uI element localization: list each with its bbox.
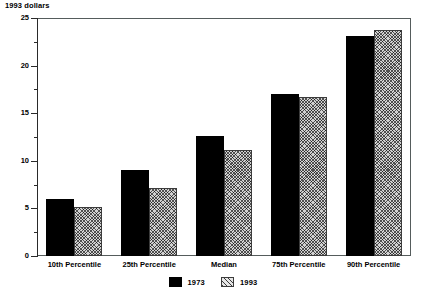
- bar-1973-75th-percentile: [271, 94, 299, 256]
- bar-1993-90th-percentile: [374, 30, 402, 256]
- bar-1973-90th-percentile: [346, 36, 374, 256]
- bar-1993-10th-percentile: [74, 207, 102, 256]
- chart-legend: 19731993: [0, 277, 426, 287]
- legend-item-1993: 1993: [221, 277, 258, 287]
- bar-1993-75th-percentile: [299, 97, 327, 256]
- legend-label: 1993: [240, 278, 258, 287]
- x-axis-tick-label: 90th Percentile: [324, 260, 424, 269]
- bar-1973-median: [196, 136, 224, 256]
- bar-1973-10th-percentile: [46, 199, 74, 256]
- bar-1973-25th-percentile: [121, 170, 149, 256]
- bars-layer: [0, 0, 426, 295]
- bar-chart: 1993 dollars 0510152025 10th Percentile2…: [0, 0, 426, 295]
- bar-1993-median: [224, 150, 252, 256]
- legend-item-1973: 1973: [169, 277, 206, 287]
- legend-swatch-1973: [169, 277, 182, 287]
- bar-1993-25th-percentile: [149, 188, 177, 256]
- legend-swatch-1993: [221, 277, 234, 287]
- legend-label: 1973: [188, 278, 206, 287]
